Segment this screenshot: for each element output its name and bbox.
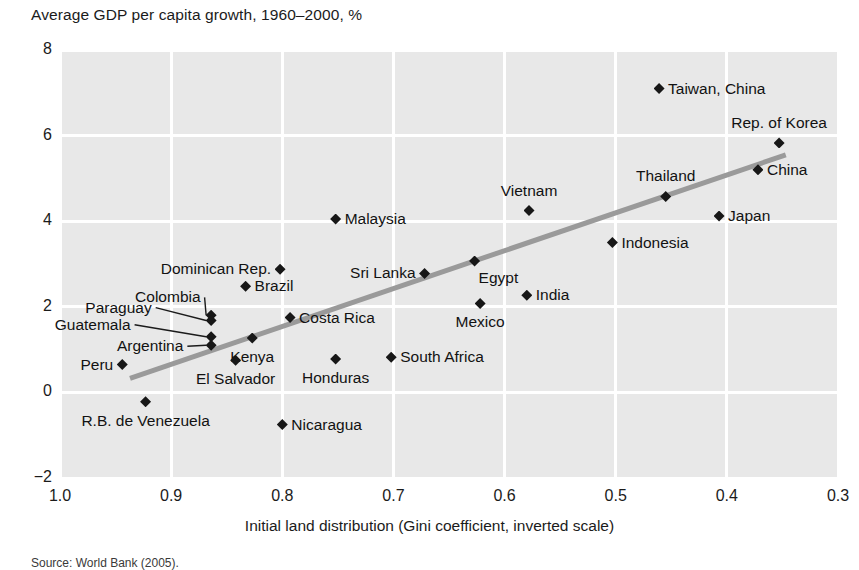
data-point-label: Dominican Rep. <box>161 261 271 277</box>
data-point-label: China <box>767 162 808 178</box>
gridline-vertical-5 <box>614 50 617 478</box>
x-tick-label: 0.7 <box>363 487 423 505</box>
gridline-vertical-6 <box>725 50 728 478</box>
x-tick-label: 0.4 <box>697 487 757 505</box>
data-point-label: Thailand <box>636 169 695 185</box>
x-tick-label: 0.9 <box>141 487 201 505</box>
y-axis-ticks: 86420−2 <box>0 50 52 478</box>
data-point-label: Sri Lanka <box>350 266 415 282</box>
gridline-vertical-7 <box>837 50 840 478</box>
chart-title: Average GDP per capita growth, 1960–2000… <box>31 6 362 24</box>
data-point-marker <box>117 359 128 370</box>
source-note: Source: World Bank (2005). <box>31 556 179 570</box>
data-point-marker <box>330 354 341 365</box>
data-point-marker <box>469 256 480 267</box>
data-point-label: Rep. of Korea <box>731 115 827 131</box>
data-point-marker <box>654 83 665 94</box>
y-tick-label: 6 <box>6 126 52 144</box>
gridline-horizontal-0 <box>60 49 838 52</box>
data-point-label: Guatemala <box>55 317 131 333</box>
y-tick-label: −2 <box>6 468 52 486</box>
x-tick-label: 0.6 <box>475 487 535 505</box>
data-point-label: South Africa <box>400 350 484 366</box>
data-point-marker <box>521 290 532 301</box>
data-point-label: Taiwan, China <box>668 81 765 97</box>
x-axis-label: Initial land distribution (Gini coeffici… <box>0 517 859 535</box>
data-point-marker <box>330 214 341 225</box>
data-point-label: Malaysia <box>345 211 406 227</box>
plot-area: Taiwan, ChinaRep. of KoreaChinaThailandV… <box>60 50 838 478</box>
data-point-label: R.B. de Venezuela <box>81 413 209 429</box>
data-point-marker <box>660 191 671 202</box>
data-point-marker <box>275 264 286 275</box>
data-point-marker <box>140 396 151 407</box>
data-point-label: Brazil <box>255 279 294 295</box>
data-point-label: Paraguay <box>85 300 151 316</box>
data-point-marker <box>240 281 251 292</box>
data-point-label: El Salvador <box>196 372 275 388</box>
data-point-label: Japan <box>728 208 770 224</box>
data-point-marker <box>285 312 296 323</box>
data-point-marker <box>206 340 217 351</box>
data-point-label: India <box>536 287 570 303</box>
data-point-label: Peru <box>80 357 113 373</box>
data-point-label: Honduras <box>302 370 369 386</box>
x-tick-label: 0.8 <box>252 487 312 505</box>
x-tick-label: 0.3 <box>808 487 859 505</box>
data-point-marker <box>774 137 785 148</box>
x-tick-label: 0.5 <box>586 487 646 505</box>
data-point-marker <box>386 352 397 363</box>
gridline-horizontal-2 <box>60 220 838 223</box>
data-point-label: Mexico <box>456 315 505 331</box>
data-point-marker <box>277 419 288 430</box>
data-point-label: Vietnam <box>501 183 558 199</box>
data-point-marker <box>524 205 535 216</box>
data-point-marker <box>247 333 258 344</box>
data-point-label: Nicaragua <box>291 417 362 433</box>
data-point-marker <box>752 164 763 175</box>
gridline-vertical-0 <box>59 50 62 478</box>
gridline-horizontal-4 <box>60 391 838 394</box>
y-tick-label: 0 <box>6 382 52 400</box>
gridline-vertical-2 <box>281 50 284 478</box>
gridline-vertical-4 <box>503 50 506 478</box>
x-tick-label: 1.0 <box>30 487 90 505</box>
gridline-horizontal-3 <box>60 305 838 308</box>
y-tick-label: 8 <box>6 40 52 58</box>
data-point-marker <box>419 268 430 279</box>
x-axis-ticks: 1.00.90.80.70.60.50.40.3 <box>60 487 838 511</box>
data-point-label: Argentina <box>117 338 183 354</box>
gridline-horizontal-5 <box>60 477 838 480</box>
data-point-label: Egypt <box>479 270 519 286</box>
y-tick-label: 4 <box>6 211 52 229</box>
data-point-label: Indonesia <box>621 235 688 251</box>
gridline-horizontal-1 <box>60 134 838 137</box>
y-tick-label: 2 <box>6 297 52 315</box>
data-point-label: Costa Rica <box>299 310 375 326</box>
